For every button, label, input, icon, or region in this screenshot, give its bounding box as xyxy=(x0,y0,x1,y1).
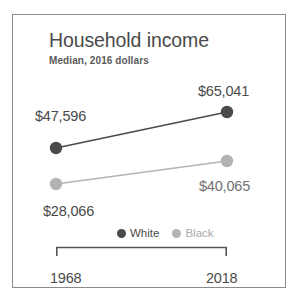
x-axis-bracket xyxy=(56,248,227,257)
value-label-white-2018: $65,041 xyxy=(198,83,249,99)
black-marker-1968[interactable] xyxy=(50,178,62,190)
white-marker-2018[interactable] xyxy=(221,106,233,118)
legend-dot-white-icon xyxy=(117,229,126,238)
legend-item-black[interactable]: Black xyxy=(172,228,213,240)
legend-item-white[interactable]: White xyxy=(117,228,159,240)
x-axis-label-2018: 2018 xyxy=(206,270,237,286)
legend-label-black: Black xyxy=(185,228,213,240)
legend-dot-black-icon xyxy=(172,229,181,238)
value-label-black-1968: $28,066 xyxy=(43,203,94,219)
plot-area: $47,596 $65,041 $28,066 $40,065 White Bl… xyxy=(13,15,285,287)
chart-legend: White Black xyxy=(117,228,214,240)
value-label-black-2018: $40,065 xyxy=(199,178,250,194)
legend-label-white: White xyxy=(130,228,159,240)
white-marker-1968[interactable] xyxy=(50,142,62,154)
x-axis-label-1968: 1968 xyxy=(50,270,81,286)
value-label-white-1968: $47,596 xyxy=(35,108,86,124)
x-axis-labels: 1968 2018 xyxy=(13,270,285,290)
chart-card: Household income Median, 2016 dollars $4… xyxy=(12,14,286,288)
slope-chart-graphic xyxy=(13,15,285,287)
black-marker-2018[interactable] xyxy=(221,155,233,167)
